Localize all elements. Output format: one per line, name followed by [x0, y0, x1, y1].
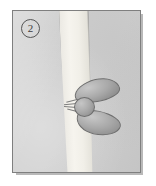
round-body [74, 97, 95, 117]
figure-panel: 2 [0, 0, 156, 186]
illustration-plate: 2 [12, 10, 141, 173]
panel-number-badge: 2 [21, 19, 40, 38]
